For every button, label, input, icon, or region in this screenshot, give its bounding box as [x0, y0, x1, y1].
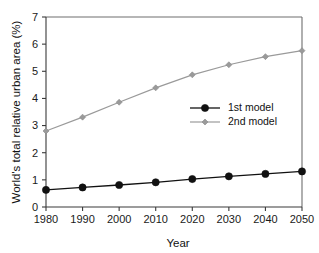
- x-tick-label: 2050: [290, 213, 314, 225]
- data-point-marker: [299, 48, 305, 54]
- data-point-marker: [116, 99, 122, 105]
- y-tick-label: 0: [32, 201, 38, 213]
- data-point-marker: [225, 173, 232, 180]
- data-point-marker: [262, 54, 268, 60]
- y-tick-label: 2: [32, 147, 38, 159]
- data-point-marker: [116, 181, 123, 188]
- data-point-marker: [153, 85, 159, 91]
- x-axis-title: Year: [166, 237, 189, 249]
- legend-label: 1st model: [228, 101, 274, 113]
- data-point-marker: [79, 184, 86, 191]
- chart-figure: 01234567 1980199020002010202020302040205…: [0, 0, 319, 253]
- chart-legend: 1st model2nd model: [190, 101, 277, 127]
- x-tick-label: 2040: [253, 213, 277, 225]
- data-point-marker: [189, 72, 195, 78]
- y-tick-label: 5: [32, 65, 38, 77]
- data-point-marker: [262, 170, 269, 177]
- x-tick-label: 2020: [180, 213, 204, 225]
- y-tick-label: 4: [32, 92, 38, 104]
- line-chart: 01234567 1980199020002010202020302040205…: [0, 0, 319, 253]
- legend-label: 2nd model: [228, 115, 277, 127]
- y-axis-ticks: 01234567: [32, 11, 46, 213]
- legend-sample-marker: [201, 104, 208, 111]
- x-tick-label: 2030: [217, 213, 241, 225]
- legend-sample-marker: [202, 119, 208, 125]
- data-point-marker: [80, 114, 86, 120]
- data-point-marker: [189, 175, 196, 182]
- y-tick-label: 7: [32, 11, 38, 23]
- x-tick-label: 1990: [70, 213, 94, 225]
- y-axis-title: World's total relative urban area (%): [10, 20, 22, 203]
- data-point-marker: [43, 128, 49, 134]
- x-tick-label: 2000: [107, 213, 131, 225]
- x-axis-ticks: 19801990200020102020203020402050: [34, 207, 314, 225]
- data-point-marker: [226, 62, 232, 68]
- y-tick-label: 1: [32, 174, 38, 186]
- data-point-marker: [42, 186, 49, 193]
- x-tick-label: 1980: [34, 213, 58, 225]
- y-tick-label: 6: [32, 38, 38, 50]
- y-tick-label: 3: [32, 119, 38, 131]
- x-tick-label: 2010: [143, 213, 167, 225]
- data-point-marker: [152, 179, 159, 186]
- data-point-marker: [298, 168, 305, 175]
